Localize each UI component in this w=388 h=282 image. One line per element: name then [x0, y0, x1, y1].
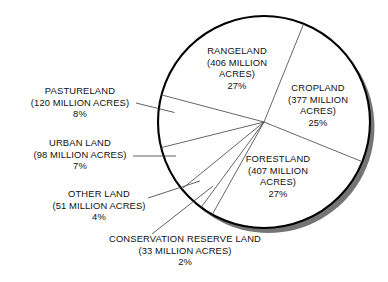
- slice-name-rangeland: RANGELAND: [207, 45, 267, 57]
- slice-label-forestland: FORESTLAND (407 MILLION ACRES) 27%: [246, 153, 311, 199]
- slice-percent-conservation-reserve: 2%: [109, 256, 261, 268]
- slice-name-forestland: FORESTLAND: [246, 153, 311, 165]
- slice-name-conservation-reserve: CONSERVATION RESERVE LAND: [109, 233, 261, 245]
- slice-acres2-cropland: ACRES): [288, 105, 348, 117]
- slice-label-rangeland: RANGELAND (406 MILLION ACRES) 27%: [207, 45, 267, 91]
- slice-label-otherland: OTHER LAND (51 MILLION ACRES) 4%: [53, 188, 146, 223]
- slice-name-pastureland: PASTURELAND: [31, 85, 129, 97]
- slice-acres-cropland: (377 MILLION: [288, 94, 348, 106]
- slice-acres-pastureland: (120 MILLION ACRES): [31, 97, 129, 109]
- slice-percent-rangeland: 27%: [207, 80, 267, 92]
- slice-name-otherland: OTHER LAND: [53, 188, 146, 200]
- slice-percent-forestland: 27%: [246, 188, 311, 200]
- slice-label-conservation-reserve: CONSERVATION RESERVE LAND (33 MILLION AC…: [109, 233, 261, 268]
- slice-acres2-forestland: ACRES): [246, 176, 311, 188]
- slice-percent-otherland: 4%: [53, 211, 146, 223]
- slice-label-cropland: CROPLAND (377 MILLION ACRES) 25%: [288, 82, 348, 128]
- slice-acres-forestland: (407 MILLION: [246, 165, 311, 177]
- slice-percent-pastureland: 8%: [31, 108, 129, 120]
- slice-name-urbanland: URBAN LAND: [34, 137, 127, 149]
- slice-acres-urbanland: (98 MILLION ACRES): [34, 149, 127, 161]
- slice-acres-conservation-reserve: (33 MILLION ACRES): [109, 245, 261, 257]
- slice-name-cropland: CROPLAND: [288, 82, 348, 94]
- slice-label-pastureland: PASTURELAND (120 MILLION ACRES) 8%: [31, 85, 129, 120]
- slice-label-urbanland: URBAN LAND (98 MILLION ACRES) 7%: [34, 137, 127, 172]
- slice-percent-cropland: 25%: [288, 117, 348, 129]
- pie-chart: RANGELAND (406 MILLION ACRES) 27% CROPLA…: [0, 0, 388, 282]
- slice-acres-rangeland: (406 MILLION: [207, 57, 267, 69]
- slice-percent-urbanland: 7%: [34, 160, 127, 172]
- slice-acres-otherland: (51 MILLION ACRES): [53, 200, 146, 212]
- slice-acres2-rangeland: ACRES): [207, 68, 267, 80]
